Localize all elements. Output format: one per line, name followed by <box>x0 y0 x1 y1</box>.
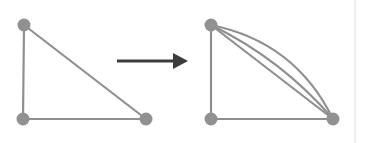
left-graph-edges <box>23 25 146 119</box>
right-graph-panel <box>205 19 340 126</box>
left-edge-A-C <box>24 25 146 119</box>
left-edge-A-B <box>23 25 24 119</box>
right-bottom-left-node <box>205 113 218 126</box>
left-bottom-left-node <box>17 113 30 126</box>
right-graph-edges <box>211 25 333 119</box>
graph-transformation-figure <box>0 0 370 143</box>
right-top-left-node <box>205 19 218 32</box>
diagram-canvas <box>0 0 370 143</box>
left-top-left-node <box>18 19 31 32</box>
left-bottom-right-node <box>140 113 153 126</box>
transformation-arrow <box>117 53 188 69</box>
right-bottom-right-node <box>327 113 340 126</box>
right-edge-A-C-straight <box>211 25 333 119</box>
arrow-head <box>173 53 188 69</box>
left-graph-panel <box>17 19 153 126</box>
